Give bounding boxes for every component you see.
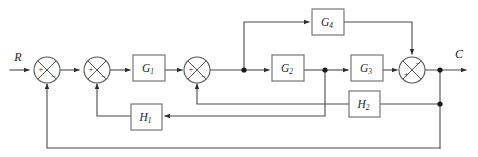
summing-junction-3-sign-bottom: − <box>201 71 206 81</box>
block-g1[interactable]: G1 <box>133 55 165 81</box>
wire-h2-to-sum3 <box>197 84 349 104</box>
wire-h1-to-sum2 <box>97 84 131 116</box>
summing-junction-3: + − <box>184 57 210 83</box>
block-g4[interactable]: G4 <box>312 9 344 35</box>
wire-g4-to-sum4 <box>344 22 412 54</box>
input-signal-label-r: R <box>13 50 22 64</box>
block-g3[interactable]: G3 <box>351 55 383 81</box>
block-diagram-canvas: + − + − + − + − G1 <box>0 0 478 157</box>
block-diagram-svg: + − + − + − + − G1 <box>0 0 478 157</box>
junction-dot-takeoff-c <box>437 67 442 72</box>
summing-junction-2: + − <box>84 57 110 83</box>
summing-junction-1-sign-left: + <box>39 64 44 74</box>
block-h1[interactable]: H1 <box>131 104 162 130</box>
summing-junction-4: + − <box>399 57 425 83</box>
junction-dot-takeoff-g4 <box>241 67 246 72</box>
junction-dot-takeoff-g2-out <box>322 67 327 72</box>
block-h2[interactable]: H2 <box>349 91 380 117</box>
summing-junction-2-sign-left: + <box>89 64 94 74</box>
summing-junction-1-sign-bottom: − <box>51 71 56 81</box>
summing-junction-4-sign-left: + <box>404 69 409 79</box>
summing-junction-2-sign-bottom: − <box>101 71 106 81</box>
summing-junction-3-sign-left: + <box>189 64 194 74</box>
block-g2[interactable]: G2 <box>272 55 304 81</box>
summing-junction-4-sign-top: − <box>416 58 421 68</box>
junction-dot-takeoff-h2 <box>437 101 442 106</box>
output-signal-label-c: C <box>455 47 464 61</box>
summing-junction-1: + − <box>34 57 60 83</box>
